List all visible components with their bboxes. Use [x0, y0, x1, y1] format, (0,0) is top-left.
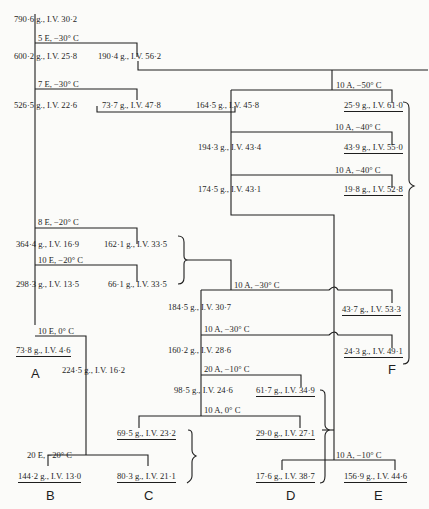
step-10a-minus30-b: 10 A, −30° C: [204, 324, 250, 334]
step-8e-minus20: 8 E, −20° C: [38, 217, 79, 227]
fraction-label-c: C: [144, 489, 153, 503]
node-25-9: 25·9 g., I.V. 61·0: [344, 100, 403, 112]
node-174-5: 174·5 g., I.V. 43·1: [198, 184, 261, 194]
node-29-0: 29·0 g., I.V. 27·1: [256, 428, 315, 440]
fractionation-diagram: 790·6 g., I.V. 30·2 5 E, −30° C 600·2 g.…: [0, 0, 429, 509]
node-80-3: 80·3 g., I.V. 21·1: [117, 471, 176, 483]
node-224-5: 224·5 g., I.V. 16·2: [62, 365, 125, 375]
node-73-7: 73·7 g., I.V. 47·8: [102, 100, 161, 110]
node-298-3: 298·3 g., I.V. 13·5: [16, 279, 79, 289]
node-190-4: 190·4 g., I.V. 56·2: [98, 51, 161, 61]
node-69-5: 69·5 g., I.V. 23·2: [117, 428, 176, 440]
node-43-9: 43·9 g., I.V. 55·0: [344, 142, 403, 154]
node-160-2: 160·2 g., I.V. 28·6: [168, 345, 231, 355]
fraction-label-a: A: [31, 367, 40, 381]
fraction-label-e: E: [374, 489, 383, 503]
step-10a-minus30-a: 10 A, −30° C: [234, 280, 280, 290]
node-43-7: 43·7 g., I.V. 53·3: [342, 304, 401, 316]
node-144-2: 144·2 g., I.V. 13·0: [18, 471, 81, 483]
node-61-7: 61·7 g., I.V. 34·9: [256, 385, 315, 397]
step-20a-minus10: 20 A, −10° C: [204, 364, 250, 374]
node-66-1: 66·1 g., I.V. 33·5: [108, 279, 167, 289]
node-184-5: 184·5 g., I.V. 30·7: [168, 302, 231, 312]
fraction-label-d: D: [286, 489, 295, 503]
step-10e-0: 10 E, 0° C: [38, 326, 74, 336]
node-164-5: 164·5 g., I.V. 45·8: [196, 100, 259, 110]
node-73-8: 73·8 g., I.V. 4·6: [16, 345, 71, 357]
node-98-5: 98·5 g., I.V. 24·6: [174, 385, 233, 395]
node-600-2: 600·2 g., I.V. 25·8: [14, 51, 77, 61]
node-156-9: 156·9 g., I.V. 44·6: [344, 471, 407, 483]
node-19-8: 19·8 g., I.V. 52·8: [344, 184, 403, 196]
step-10a-minus10: 10 A, −10° C: [336, 450, 382, 460]
node-162-1: 162·1 g., I.V. 33·5: [104, 239, 167, 249]
step-10a-minus50: 10 A, −50° C: [336, 80, 382, 90]
node-17-6: 17·6 g., I.V. 38·7: [256, 471, 315, 483]
step-10a-minus40-a: 10 A, −40° C: [335, 122, 381, 132]
step-10a-minus40-b: 10 A, −40° C: [335, 165, 381, 175]
node-24-3: 24·3 g., I.V. 49·1: [344, 346, 403, 358]
fraction-label-f: F: [388, 363, 396, 377]
step-10a-0: 10 A, 0° C: [204, 405, 240, 415]
node-790-6: 790·6 g., I.V. 30·2: [14, 14, 77, 24]
node-526-5: 526·5 g., I.V. 22·6: [14, 100, 77, 110]
step-10e-minus20: 10 E, −20° C: [38, 255, 83, 265]
step-20e-minus20: 20 E, −20° C: [27, 450, 72, 460]
node-194-3: 194·3 g., I.V. 43·4: [198, 142, 261, 152]
fraction-label-b: B: [46, 489, 55, 503]
node-364-4: 364·4 g., I.V. 16·9: [16, 239, 79, 249]
step-7e-minus30: 7 E, −30° C: [38, 79, 79, 89]
step-5e-minus30: 5 E, −30° C: [38, 33, 79, 43]
